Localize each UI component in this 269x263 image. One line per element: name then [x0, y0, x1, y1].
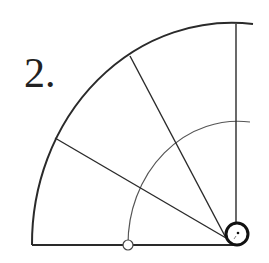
small-hollow-circle: [123, 240, 133, 250]
quarter-circle-diagram: [0, 0, 269, 263]
pivot-circle: [226, 223, 248, 245]
diagram-canvas: 2.: [0, 0, 269, 263]
outer-arc: [32, 23, 253, 245]
pivot-dot: [237, 232, 240, 235]
